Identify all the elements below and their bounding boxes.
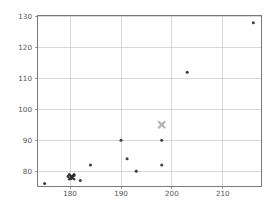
data-point: [160, 139, 163, 142]
data-point: [186, 71, 189, 74]
data-point: [126, 157, 129, 160]
data-point: [160, 163, 163, 166]
y-tick-label: 80: [23, 167, 33, 176]
x-tick-label: 210: [216, 189, 230, 198]
data-point: [252, 21, 255, 24]
data-point: [89, 163, 92, 166]
x-tick-label: 180: [63, 189, 77, 198]
y-tick-label: 120: [18, 43, 32, 52]
x-tick-label: 190: [114, 189, 128, 198]
y-tick-label: 130: [18, 12, 32, 21]
scatter-plot-figure: 180190200210 8090100110120130: [0, 0, 278, 215]
data-point: [119, 139, 122, 142]
plot-area-background: [37, 15, 261, 186]
data-point: [79, 179, 82, 182]
y-tick-label: 110: [18, 74, 32, 83]
y-tick-label: 90: [23, 136, 33, 145]
x-tick-label: 200: [165, 189, 179, 198]
plot-canvas: 180190200210 8090100110120130: [0, 0, 278, 215]
data-point: [43, 182, 46, 185]
y-tick-label: 100: [18, 105, 32, 114]
data-point: [135, 170, 138, 173]
